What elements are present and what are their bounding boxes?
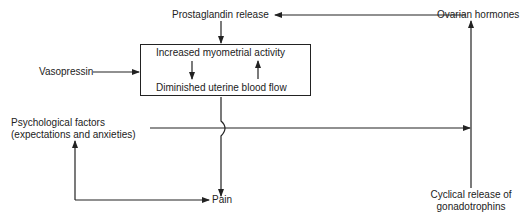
gonadotrophins-label: gonadotrophins (425, 201, 517, 213)
prostaglandin-label: Prostaglandin release (172, 9, 269, 21)
cyclical-release-label: Cyclical release of (425, 189, 517, 201)
vasopressin-label: Vasopressin (39, 66, 93, 78)
box-bottom-label: Diminished uterine blood flow (156, 82, 287, 94)
box-top-label: Increased myometrial activity (156, 47, 285, 59)
psych-factors-sublabel: (expectations and anxieties) (11, 129, 136, 141)
pain-label: Pain (212, 194, 232, 206)
ovarian-hormones-label: Ovarian hormones (437, 9, 519, 21)
arrow-box-to-pain (221, 97, 225, 196)
psych-factors-label: Psychological factors (11, 117, 105, 129)
dysmenorrhea-flow-diagram: Prostaglandin release Ovarian hormones V… (0, 0, 525, 217)
connector-lines (0, 0, 525, 217)
